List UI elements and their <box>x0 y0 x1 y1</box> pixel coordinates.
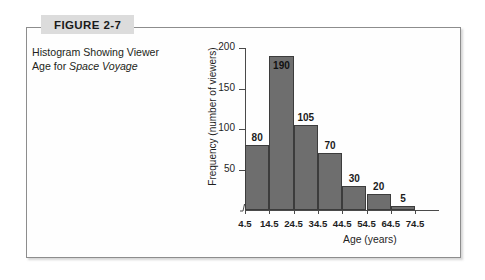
y-axis-tick-label: 200 <box>218 41 235 52</box>
histogram-chart: Frequency (number of viewers) 5010015020… <box>193 36 471 262</box>
bar-value-label: 105 <box>297 112 314 123</box>
x-axis-tick-label: 44.5 <box>333 218 352 229</box>
x-axis-tick-label: 64.5 <box>381 218 400 229</box>
histogram-bar <box>391 206 415 210</box>
x-axis-tick <box>367 210 368 214</box>
x-axis-tick <box>294 210 295 214</box>
bar-value-label: 20 <box>373 181 384 192</box>
y-axis-tick-label: 100 <box>218 122 235 133</box>
y-axis-tick: 200 <box>239 48 246 49</box>
x-axis-tick-label: 4.5 <box>238 218 251 229</box>
histogram-bar <box>294 125 318 210</box>
histogram-bar <box>318 153 342 210</box>
caption-title-italic: Space Voyage <box>69 60 138 72</box>
y-axis-tick: 150 <box>239 89 246 90</box>
x-axis-tick <box>318 210 319 214</box>
y-axis-tick-label: 50 <box>224 163 235 174</box>
y-axis-tick-label: 150 <box>218 82 235 93</box>
histogram-bar <box>245 145 269 210</box>
figure-container: FIGURE 2-7 Histogram Showing Viewer Age … <box>0 0 485 280</box>
bar-value-label: 70 <box>324 140 335 151</box>
figure-caption: Histogram Showing Viewer Age for Space V… <box>32 45 182 73</box>
caption-line-1: Histogram Showing Viewer <box>32 46 159 58</box>
bar-value-label: 30 <box>349 173 360 184</box>
x-axis-tick <box>342 210 343 214</box>
x-axis-tick <box>391 210 392 214</box>
x-axis-tick-label: 54.5 <box>357 218 376 229</box>
x-axis-tick <box>415 210 416 214</box>
histogram-bar <box>342 186 366 210</box>
x-axis-tick-label: 24.5 <box>284 218 303 229</box>
bar-value-label: 5 <box>400 193 406 204</box>
bar-value-label: 80 <box>252 132 263 143</box>
figure-number-label: FIGURE 2-7 <box>54 19 121 31</box>
caption-line-2-prefix: Age for <box>32 60 69 72</box>
x-axis-title: Age (years) <box>343 234 397 245</box>
figure-number-tab: FIGURE 2-7 <box>41 15 134 34</box>
x-axis-tick-label: 74.5 <box>406 218 425 229</box>
bar-value-label: 190 <box>273 60 290 71</box>
y-axis-title: Frequency (number of viewers) <box>207 42 218 192</box>
x-axis-tick <box>269 210 270 214</box>
histogram-bar <box>367 194 391 210</box>
histogram-bar <box>269 56 293 210</box>
x-axis-tick-label: 14.5 <box>260 218 279 229</box>
y-axis-tick: 100 <box>239 129 246 130</box>
x-axis-tick-label: 34.5 <box>309 218 328 229</box>
x-axis-tick <box>245 210 246 214</box>
